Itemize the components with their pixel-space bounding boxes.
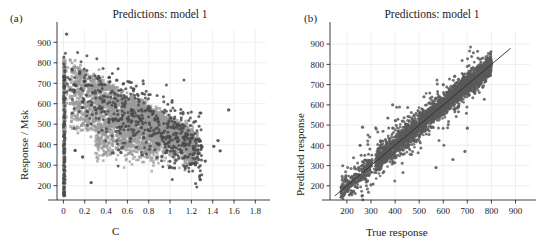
panel-a-ylabel: Response / Msk: [18, 110, 30, 180]
panel-b-ylabel: Predicted response: [294, 113, 306, 196]
svg-text:800: 800: [311, 60, 325, 70]
svg-text:900: 900: [38, 38, 52, 48]
panel-b-plot: 2003004005006007008009002003004005006007…: [272, 0, 543, 250]
svg-text:1.4: 1.4: [207, 206, 219, 216]
svg-text:500: 500: [412, 206, 426, 216]
svg-text:500: 500: [311, 120, 325, 130]
svg-text:1.6: 1.6: [228, 206, 240, 216]
svg-text:700: 700: [38, 79, 52, 89]
svg-text:200: 200: [38, 181, 52, 191]
panel-a: (a) Predictions: model 1 00.20.40.60.811…: [0, 0, 272, 250]
svg-text:1.2: 1.2: [186, 206, 197, 216]
svg-text:600: 600: [38, 99, 52, 109]
svg-text:300: 300: [311, 161, 325, 171]
svg-text:900: 900: [509, 206, 523, 216]
svg-text:700: 700: [311, 80, 325, 90]
svg-text:0: 0: [61, 206, 66, 216]
svg-text:300: 300: [38, 160, 52, 170]
svg-text:1.8: 1.8: [250, 206, 262, 216]
svg-text:0.6: 0.6: [122, 206, 134, 216]
panel-a-xlabel: C: [112, 225, 119, 237]
panel-b: (b) Predictions: model 1 200300400500600…: [272, 0, 543, 250]
svg-text:0.4: 0.4: [100, 206, 112, 216]
svg-text:500: 500: [38, 119, 52, 129]
svg-text:0.8: 0.8: [143, 206, 155, 216]
svg-text:900: 900: [311, 39, 325, 49]
panel-b-xlabel: True response: [366, 226, 428, 238]
svg-text:600: 600: [437, 206, 451, 216]
svg-text:400: 400: [388, 206, 402, 216]
svg-text:200: 200: [340, 206, 354, 216]
svg-text:1: 1: [168, 206, 173, 216]
svg-text:400: 400: [311, 141, 325, 151]
svg-text:700: 700: [461, 206, 475, 216]
svg-text:600: 600: [311, 100, 325, 110]
panel-a-plot: 00.20.40.60.811.21.41.61.820030040050060…: [0, 0, 272, 250]
figure-container: (a) Predictions: model 1 00.20.40.60.811…: [0, 0, 543, 250]
svg-text:300: 300: [364, 206, 378, 216]
svg-text:800: 800: [485, 206, 499, 216]
svg-text:200: 200: [311, 181, 325, 191]
svg-text:400: 400: [38, 140, 52, 150]
svg-text:0.2: 0.2: [79, 206, 90, 216]
svg-text:800: 800: [38, 58, 52, 68]
